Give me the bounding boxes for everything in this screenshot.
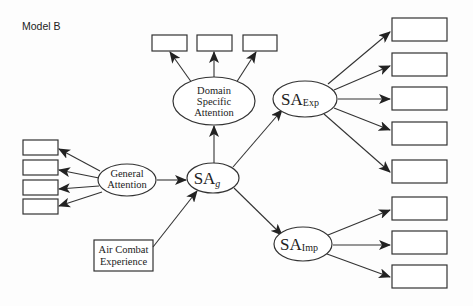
indicator-box — [23, 160, 58, 175]
indicator-box — [392, 197, 447, 220]
indicator-box — [392, 18, 447, 41]
node-subscript: Imp — [302, 242, 318, 253]
indicator-box — [392, 265, 447, 288]
indicator-box — [243, 35, 277, 51]
edge-sag-to-saimp — [234, 188, 282, 235]
node-label: Attention — [194, 107, 234, 118]
indicator-box — [152, 35, 187, 51]
domain-specific-attention-node: Domain Specific Attention — [173, 77, 255, 125]
indicator-box — [23, 140, 58, 155]
edge-dsa-to-indicator — [236, 52, 256, 83]
node-label: Specific — [197, 96, 232, 107]
air-combat-experience-node: Air Combat Experience — [94, 240, 153, 271]
edge-saexp-to-indicator — [328, 32, 390, 84]
node-subscript: g — [215, 178, 220, 189]
edge-saexp-to-indicator — [324, 114, 390, 172]
domain-attention-indicators — [152, 35, 277, 51]
diagram-canvas: Model B Domain Specific Attention — [0, 0, 473, 306]
edge-saimp-to-indicator — [327, 254, 390, 277]
node-label: Experience — [100, 256, 148, 267]
edge-ga-to-indicator — [59, 149, 100, 171]
indicator-box — [392, 231, 447, 254]
node-subscript: Exp — [303, 97, 319, 108]
indicator-box — [23, 199, 58, 214]
sa-implicit-node: SAImp — [274, 227, 332, 261]
node-label: SA — [280, 235, 302, 254]
sa-explicit-indicators — [392, 18, 447, 183]
sa-explicit-node: SAExp — [273, 81, 337, 117]
indicator-box — [23, 180, 58, 195]
edge-ga-to-indicator — [59, 192, 102, 206]
general-attention-node: General Attention — [98, 164, 156, 196]
general-attention-indicators — [23, 140, 58, 214]
node-label: SA — [281, 90, 303, 109]
edge-saexp-to-indicator — [334, 108, 390, 130]
edge-ga-to-indicator — [59, 170, 99, 178]
node-label: SA — [194, 169, 216, 188]
indicator-box — [392, 122, 447, 145]
edge-dsa-to-indicator — [170, 52, 192, 83]
indicator-box — [197, 35, 232, 51]
indicator-box — [392, 87, 447, 110]
node-label: Attention — [107, 179, 147, 190]
edge-ga-to-indicator — [59, 186, 99, 189]
edge-saexp-to-indicator — [334, 66, 390, 90]
node-label: General — [110, 168, 143, 179]
indicator-box — [392, 53, 447, 76]
node-label: Air Combat — [99, 244, 149, 255]
node-label: Domain — [197, 85, 232, 96]
sa-implicit-indicators — [392, 197, 447, 288]
edge-saimp-to-indicator — [328, 210, 390, 235]
edge-ace-to-sag — [153, 191, 197, 247]
indicator-box — [392, 160, 447, 183]
sa-general-node: SAg — [187, 163, 239, 193]
